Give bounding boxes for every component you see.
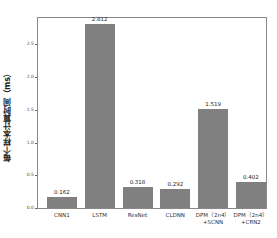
- bar: [160, 189, 190, 208]
- bar: [123, 187, 153, 208]
- y-tick-mark: [35, 110, 37, 111]
- bar-value-label: 0.292: [155, 181, 195, 187]
- y-tick-mark: [35, 143, 37, 144]
- y-tick-label: 0.5: [16, 172, 34, 177]
- y-tick-label: 1.0: [16, 140, 34, 145]
- y-tick-mark: [35, 175, 37, 176]
- bar-value-label: 0.402: [231, 174, 271, 180]
- bar-value-label: 1.519: [193, 101, 233, 107]
- bar-value-label: 0.318: [118, 179, 158, 185]
- x-category-label: DPM（2n4）+CRN2: [229, 212, 273, 225]
- bar: [47, 197, 77, 208]
- bar: [198, 109, 228, 208]
- bar-value-label: 2.812: [80, 16, 120, 22]
- bar: [236, 182, 266, 208]
- y-axis-label: 每个样本计算时间（ms）: [2, 60, 16, 170]
- y-tick-mark: [35, 77, 37, 78]
- y-tick-label: 2.0: [16, 74, 34, 79]
- bar-value-label: 0.162: [42, 189, 82, 195]
- y-tick-label: 0.0: [16, 205, 34, 210]
- y-tick-mark: [35, 44, 37, 45]
- y-tick-mark: [35, 208, 37, 209]
- bar: [85, 24, 115, 208]
- y-tick-label: 1.5: [16, 107, 34, 112]
- y-tick-label: 2.5: [16, 41, 34, 46]
